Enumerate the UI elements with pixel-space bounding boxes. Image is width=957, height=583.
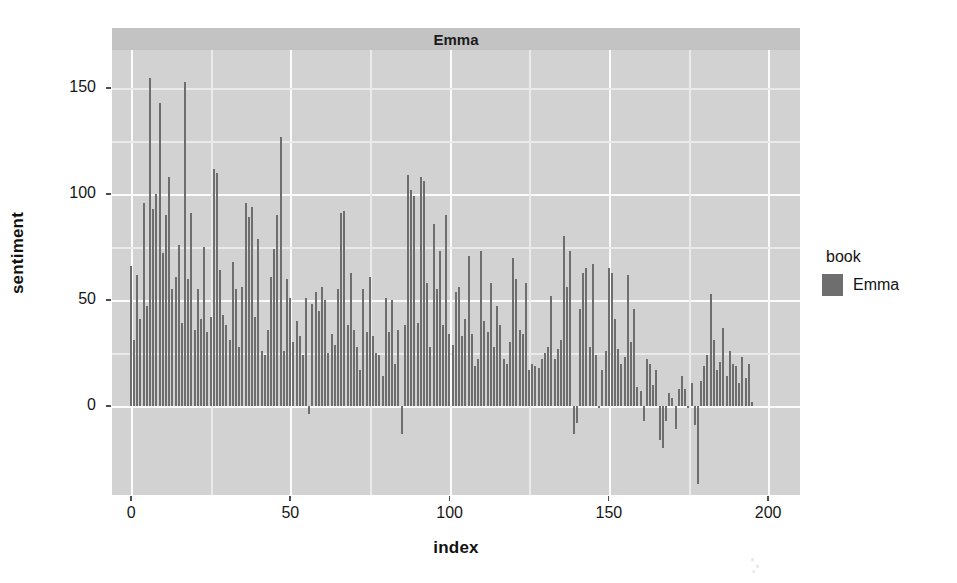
x-tick-mark	[289, 496, 291, 501]
bar	[474, 366, 476, 406]
bar	[168, 177, 170, 406]
bar	[442, 325, 444, 406]
bar	[735, 366, 737, 406]
bar	[468, 256, 470, 406]
bar	[611, 273, 613, 407]
bar	[490, 283, 492, 406]
bar	[624, 357, 626, 406]
bar	[149, 78, 151, 406]
bar	[133, 340, 135, 406]
bar	[296, 321, 298, 406]
bar	[404, 325, 406, 406]
bar	[143, 203, 145, 406]
bar	[152, 209, 154, 406]
bar	[241, 287, 243, 406]
bar	[684, 389, 686, 406]
bar	[627, 275, 629, 406]
y-axis-title: sentiment	[8, 163, 28, 343]
x-axis-title: index	[112, 538, 800, 558]
bar	[499, 325, 501, 406]
bar	[225, 325, 227, 406]
bar	[557, 349, 559, 406]
bar	[394, 364, 396, 406]
bar	[519, 330, 521, 406]
bar	[378, 355, 380, 406]
bar	[573, 406, 575, 434]
bar	[353, 330, 355, 406]
bar	[538, 368, 540, 406]
bar	[340, 213, 342, 406]
bar	[385, 298, 387, 406]
bar	[171, 289, 173, 406]
bar	[362, 289, 364, 406]
y-tick-label: 100	[28, 184, 96, 202]
bar	[729, 351, 731, 406]
bar	[130, 266, 132, 406]
bar	[595, 355, 597, 406]
bar	[636, 387, 638, 406]
legend-item-emma: Emma	[822, 274, 952, 296]
y-tick-label: 50	[28, 290, 96, 308]
bar	[235, 289, 237, 406]
bar	[327, 353, 329, 406]
bar	[614, 319, 616, 406]
bar	[589, 347, 591, 406]
bar	[433, 224, 435, 406]
bar	[534, 366, 536, 406]
bar	[671, 398, 673, 406]
bar	[598, 406, 600, 408]
x-tick-mark	[608, 496, 610, 501]
bar	[678, 389, 680, 406]
bar	[178, 245, 180, 406]
y-tick-label: 0	[28, 396, 96, 414]
bar	[417, 323, 419, 406]
bar	[515, 279, 517, 406]
bar	[646, 359, 648, 406]
bar	[448, 334, 450, 406]
bar	[633, 309, 635, 406]
x-tick-mark	[130, 496, 132, 501]
bar	[662, 406, 664, 448]
legend: book Emma	[822, 248, 952, 296]
bar	[722, 328, 724, 406]
bar	[206, 332, 208, 406]
bar	[331, 334, 333, 406]
bar	[388, 332, 390, 406]
bar	[496, 306, 498, 406]
bar	[343, 211, 345, 406]
bar	[445, 215, 447, 406]
bar	[308, 406, 310, 414]
bar	[334, 345, 336, 406]
bar	[222, 315, 224, 406]
bar	[436, 289, 438, 406]
bar	[738, 383, 740, 406]
bar	[213, 169, 215, 406]
bar	[200, 319, 202, 406]
bar	[289, 298, 291, 406]
bar	[251, 207, 253, 406]
bar	[305, 298, 307, 406]
bar	[649, 364, 651, 406]
bar	[480, 251, 482, 406]
bar	[350, 273, 352, 407]
bar	[410, 190, 412, 406]
x-tick-mark	[767, 496, 769, 501]
bar	[547, 347, 549, 406]
x-tick-label: 0	[101, 504, 161, 522]
bar	[503, 359, 505, 406]
bar	[324, 300, 326, 406]
bar	[136, 275, 138, 406]
y-tick-mark	[106, 299, 111, 301]
bar	[155, 194, 157, 406]
bar	[652, 385, 654, 406]
bar	[159, 103, 161, 406]
bar	[605, 351, 607, 406]
bar-series-emma	[112, 50, 800, 495]
bar	[471, 334, 473, 406]
bar	[146, 306, 148, 406]
bar	[569, 251, 571, 406]
legend-item-label: Emma	[853, 276, 899, 294]
bar	[452, 345, 454, 406]
bar	[703, 366, 705, 406]
bar	[347, 325, 349, 406]
